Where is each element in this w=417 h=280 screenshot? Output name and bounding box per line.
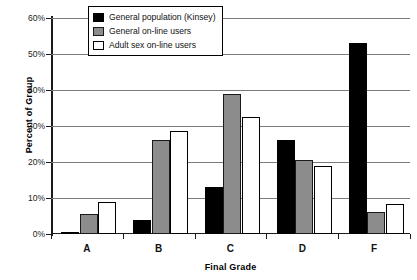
bar-chart: Percent of Group 0%10%20%30%40%50%60%ABC…: [0, 0, 417, 280]
y-axis-title: Percent of Group: [24, 40, 34, 190]
legend-item-0: General population (Kinsey): [93, 10, 216, 24]
y-tick-label: 50%: [5, 50, 45, 59]
bar-f-series-0: [349, 43, 367, 234]
bar-b-series-2: [170, 131, 188, 234]
bar-b-series-0: [133, 220, 151, 234]
x-category-label-c: C: [210, 243, 250, 254]
bar-d-series-1: [295, 160, 313, 234]
y-tick-label: 60%: [5, 14, 45, 23]
x-tick-mark: [266, 234, 267, 239]
bar-a-series-1: [80, 214, 98, 234]
x-category-label-f: F: [354, 243, 394, 254]
bar-f-series-1: [367, 212, 385, 234]
x-tick-mark: [123, 234, 124, 239]
bar-c-series-1: [223, 94, 241, 234]
x-category-label-d: D: [282, 243, 322, 254]
x-category-label-b: B: [139, 243, 179, 254]
legend-swatch-icon: [93, 27, 104, 36]
legend-label: Adult sex on-line users: [109, 40, 196, 50]
x-tick-mark: [51, 234, 52, 239]
y-tick-label: 40%: [5, 86, 45, 95]
bar-c-series-0: [205, 187, 223, 234]
legend-swatch-icon: [93, 41, 104, 50]
legend-item-1: General on-line users: [93, 24, 216, 38]
bar-f-series-2: [386, 204, 404, 234]
legend-item-2: Adult sex on-line users: [93, 38, 216, 52]
x-axis-title: Final Grade: [51, 262, 410, 272]
bar-a-series-2: [98, 202, 116, 234]
legend-label: General population (Kinsey): [109, 12, 216, 22]
y-tick-label: 30%: [5, 122, 45, 131]
y-tick-label: 20%: [5, 158, 45, 167]
y-tick-label: 0%: [5, 230, 45, 239]
bar-d-series-0: [277, 140, 295, 234]
bar-group-d: D: [266, 18, 338, 234]
bar-d-series-2: [314, 166, 332, 234]
legend-label: General on-line users: [109, 26, 191, 36]
chart-legend: General population (Kinsey)General on-li…: [88, 6, 223, 56]
x-tick-mark: [195, 234, 196, 239]
bar-c-series-2: [242, 117, 260, 234]
bar-b-series-1: [152, 140, 170, 234]
x-category-label-a: A: [67, 243, 107, 254]
bar-a-series-0: [61, 232, 79, 234]
x-tick-mark: [338, 234, 339, 239]
legend-swatch-icon: [93, 13, 104, 22]
y-tick-label: 10%: [5, 194, 45, 203]
x-tick-mark: [410, 234, 411, 239]
bar-group-f: F: [338, 18, 410, 234]
